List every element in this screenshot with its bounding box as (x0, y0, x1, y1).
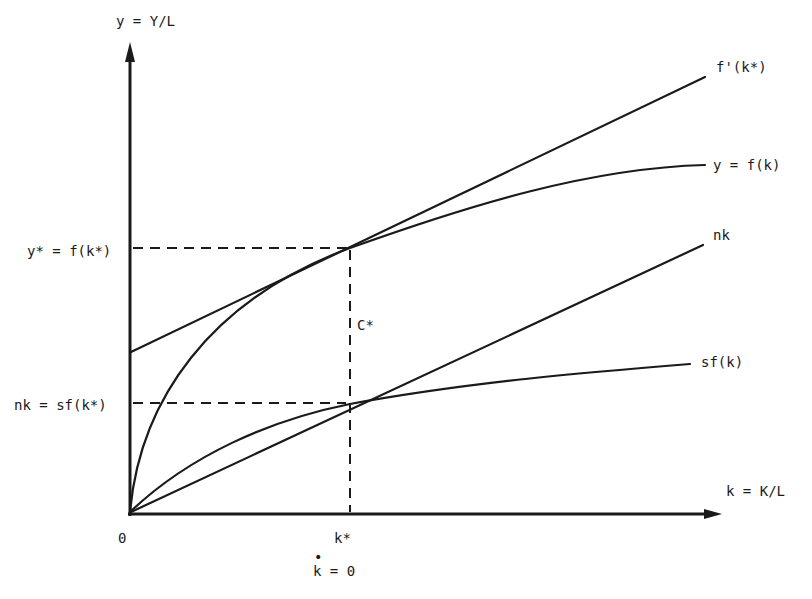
curves (130, 77, 705, 512)
production-label: y = f(k) (713, 157, 780, 173)
savings-curve-sf-k (130, 364, 690, 512)
k-dot-equals-zero-label: k = 0 (313, 563, 355, 579)
y-star-label: y* = f(k*) (27, 243, 111, 259)
tangent-label: f'(k*) (716, 59, 767, 75)
guide-lines (133, 248, 350, 512)
nk-star-label: nk = sf(k*) (14, 397, 107, 413)
nk-line (131, 245, 703, 512)
production-curve-f-k (130, 165, 705, 512)
y-axis-label: y = Y/L (116, 13, 175, 29)
origin-label: 0 (118, 530, 126, 546)
tangent-line-f-prime (131, 77, 705, 352)
x-axis-label: k = K/L (726, 483, 785, 499)
solow-diagram: y = Y/L k = K/L 0 k* • k = 0 y* = f(k*) … (0, 0, 812, 599)
k-star-label: k* (334, 530, 351, 546)
x-axis-arrow-icon (704, 509, 722, 519)
axes (125, 42, 722, 519)
nk-label: nk (713, 227, 730, 243)
c-star-label: C* (357, 317, 374, 333)
y-axis-arrow-icon (125, 42, 135, 62)
savings-label: sf(k) (701, 354, 743, 370)
